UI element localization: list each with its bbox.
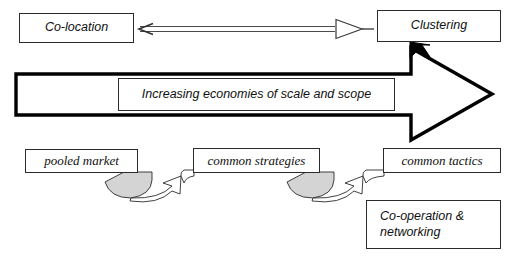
- wedge-gray-2: [287, 172, 334, 198]
- node-label-increasing-economies: Increasing economies of scale and scope: [142, 87, 371, 103]
- node-label-co-location: Co-location: [45, 20, 108, 36]
- node-box-common-tactics[interactable]: common tactics: [383, 148, 501, 173]
- thin-arrow-head: [336, 20, 362, 39]
- node-label-co-operation-networking: Co-operation & networking: [380, 209, 464, 240]
- wedge-white-neck-2: [363, 170, 384, 183]
- diagram-canvas: Co-location Clustering Increasing econom…: [0, 0, 514, 264]
- node-box-common-strategies[interactable]: common strategies: [193, 148, 320, 173]
- node-box-clustering[interactable]: Clustering: [377, 10, 501, 42]
- thin-arrow-tail-chevron: [139, 24, 153, 35]
- node-box-pooled-market[interactable]: pooled market: [25, 149, 138, 173]
- curved-wedge-connector-2: [287, 170, 384, 202]
- node-box-co-location[interactable]: Co-location: [19, 13, 134, 43]
- node-label-clustering: Clustering: [411, 18, 467, 34]
- node-box-increasing-economies[interactable]: Increasing economies of scale and scope: [118, 78, 395, 111]
- node-label-common-strategies: common strategies: [208, 153, 306, 169]
- curved-wedge-connector-1: [105, 170, 194, 202]
- thin-open-arrow: [139, 20, 374, 39]
- node-label-pooled-market: pooled market: [44, 153, 119, 169]
- wedge-gray-1: [105, 172, 152, 198]
- thin-arrow-shaft: [140, 27, 335, 32]
- node-label-common-tactics: common tactics: [401, 153, 482, 169]
- node-box-co-operation-networking[interactable]: Co-operation & networking: [366, 200, 501, 249]
